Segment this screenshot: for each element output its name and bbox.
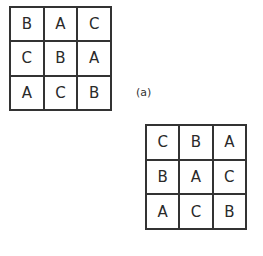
- grid-cell: C: [44, 76, 78, 110]
- grid-cell: B: [179, 125, 212, 160]
- latin-square-b: C B A B A C A C B: [145, 124, 247, 230]
- grid-cell: C: [77, 7, 111, 41]
- grid-cell: C: [10, 41, 44, 75]
- grid-cell: C: [213, 160, 246, 195]
- grid-cell: B: [77, 76, 111, 110]
- grid-cell: A: [179, 160, 212, 195]
- grid-cell: A: [77, 41, 111, 75]
- grid-cell: C: [179, 194, 212, 229]
- latin-square-a: B A C C B A A C B: [9, 6, 112, 111]
- grid-cell: B: [10, 7, 44, 41]
- grid-cell: A: [44, 7, 78, 41]
- grid-cell: C: [146, 125, 179, 160]
- grid-cell: A: [10, 76, 44, 110]
- grid-cell: A: [213, 125, 246, 160]
- grid-cell: B: [146, 160, 179, 195]
- figure-label-a: (a): [136, 86, 151, 99]
- grid-cell: B: [44, 41, 78, 75]
- grid-cell: A: [146, 194, 179, 229]
- grid-cell: B: [213, 194, 246, 229]
